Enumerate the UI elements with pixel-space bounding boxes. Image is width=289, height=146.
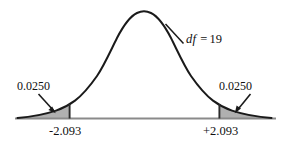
df-symbol: df [186, 32, 198, 46]
df-equals-sign: = [198, 32, 209, 46]
left-critical-value-label: -2.093 [49, 125, 81, 138]
df-value: 19 [209, 32, 222, 46]
distribution-plot [0, 0, 289, 146]
t-distribution-figure: df=19 0.0250 0.0250 -2.093 +2.093 [0, 0, 289, 146]
right-critical-value-label: +2.093 [203, 125, 238, 138]
right-tail-area-label: 0.0250 [219, 80, 252, 92]
df-annotation: df=19 [186, 33, 222, 46]
right-area-arrow [235, 94, 251, 113]
left-area-arrow [39, 94, 56, 113]
t-distribution-curve [18, 12, 272, 118]
left-tail-area-label: 0.0250 [17, 80, 50, 92]
